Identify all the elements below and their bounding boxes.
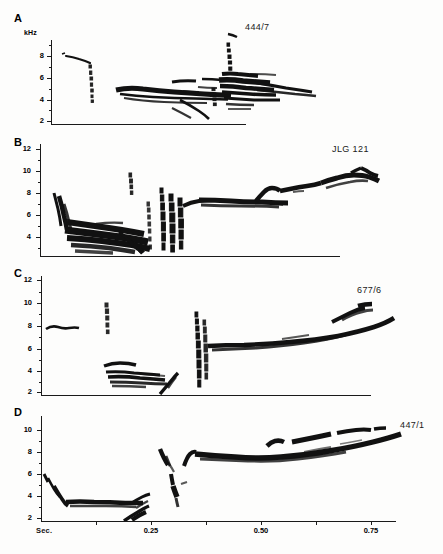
y-tick-b-4 [36, 237, 40, 238]
y-tick-minor-b-1 [38, 160, 41, 161]
panel-letter-a: A [14, 12, 22, 24]
spectrogram-trace-b [41, 144, 443, 256]
y-tick-a-4 [47, 100, 51, 101]
y-tick-label-d-2: 2 [18, 513, 32, 522]
y-tick-b-6 [36, 215, 40, 216]
y-tick-label-c-4: 4 [18, 366, 32, 375]
y-tick-d-2 [37, 518, 41, 519]
y-tick-c-8 [37, 326, 41, 327]
y-tick-b-10 [36, 171, 40, 172]
x-tick-d-075 [371, 521, 372, 525]
y-tick-label-c-6: 6 [18, 344, 32, 353]
y-tick-label-d-6: 6 [18, 469, 32, 478]
y-tick-c-4 [37, 371, 41, 372]
x-tick-d-minor-3 [316, 521, 317, 525]
y-tick-label-d-10: 10 [18, 425, 32, 434]
x-axis-line-b [40, 256, 340, 257]
x-axis-line-a [51, 124, 246, 125]
y-tick-label-c-10: 10 [18, 298, 32, 307]
y-tick-b-12 [36, 149, 40, 150]
y-tick-label-d-4: 4 [18, 491, 32, 500]
y-tick-a-2 [47, 121, 51, 122]
y-tick-label-b-8: 8 [17, 188, 31, 197]
y-tick-c-12 [37, 280, 41, 281]
panel-d: D 10 8 6 4 2 447/1 [0, 398, 443, 554]
x-axis-line-c [41, 395, 371, 396]
y-tick-d-6 [37, 474, 41, 475]
spectrogram-figure: A kHz 8 6 4 2 444/7 [0, 0, 443, 554]
y-tick-label-a-8: 8 [30, 51, 44, 60]
x-tick-label-025: 0.25 [137, 526, 165, 535]
y-tick-minor-b-2 [38, 182, 41, 183]
x-tick-label-050: 0.50 [247, 526, 275, 535]
y-tick-c-10 [37, 303, 41, 304]
x-tick-d-025 [151, 521, 152, 525]
y-tick-a-6 [47, 78, 51, 79]
y-tick-label-c-12: 12 [18, 275, 32, 284]
panel-b: B 12 10 8 6 4 JLG 121 [0, 128, 443, 258]
y-tick-label-a-6: 6 [30, 73, 44, 82]
y-tick-b-8 [36, 193, 40, 194]
y-tick-a-8 [47, 56, 51, 57]
panel-c: C 12 10 8 6 4 2 677/6 [0, 262, 443, 397]
y-tick-minor-c-3 [39, 337, 42, 338]
x-tick-d-050 [261, 521, 262, 525]
x-axis-line-d [41, 521, 396, 522]
panel-a: A kHz 8 6 4 2 444/7 [0, 0, 443, 130]
y-tick-minor-b-5 [38, 248, 41, 249]
y-tick-minor-c-5 [39, 382, 42, 383]
unit-label-khz-a: kHz [24, 29, 37, 36]
y-tick-d-10 [37, 430, 41, 431]
y-tick-d-4 [37, 496, 41, 497]
spectrogram-trace-a [52, 30, 443, 124]
y-tick-label-d-8: 8 [18, 447, 32, 456]
y-tick-label-c-8: 8 [18, 321, 32, 330]
y-tick-label-b-6: 6 [17, 210, 31, 219]
y-tick-label-c-2: 2 [18, 387, 32, 396]
x-tick-label-075: 0.75 [357, 526, 385, 535]
y-tick-minor-a-3 [49, 89, 52, 90]
y-tick-minor-d-3 [39, 485, 42, 486]
y-tick-label-a-4: 4 [30, 95, 44, 104]
x-tick-d-minor-2 [206, 521, 207, 525]
y-tick-c-6 [37, 349, 41, 350]
y-tick-label-b-12: 12 [17, 144, 31, 153]
y-tick-minor-b-4 [38, 226, 41, 227]
spectrogram-trace-c [42, 276, 443, 395]
y-tick-label-b-10: 10 [17, 166, 31, 175]
y-tick-minor-a-2 [49, 67, 52, 68]
time-axis-label: Sec. [36, 526, 52, 535]
y-tick-minor-d-4 [39, 507, 42, 508]
y-tick-label-a-2: 2 [30, 116, 44, 125]
x-tick-d-minor-1 [96, 521, 97, 525]
y-tick-c-2 [37, 392, 41, 393]
y-tick-d-8 [37, 452, 41, 453]
y-tick-minor-a-1 [49, 45, 52, 46]
y-tick-minor-c-4 [39, 360, 42, 361]
y-tick-minor-d-2 [39, 463, 42, 464]
y-tick-minor-c-1 [39, 292, 42, 293]
y-tick-minor-d-1 [39, 441, 42, 442]
y-tick-minor-a-4 [49, 110, 52, 111]
panel-letter-d: D [14, 406, 22, 418]
spectrogram-trace-d [42, 416, 443, 521]
y-tick-minor-c-2 [39, 314, 42, 315]
y-tick-minor-b-3 [38, 204, 41, 205]
y-tick-label-b-4: 4 [17, 232, 31, 241]
